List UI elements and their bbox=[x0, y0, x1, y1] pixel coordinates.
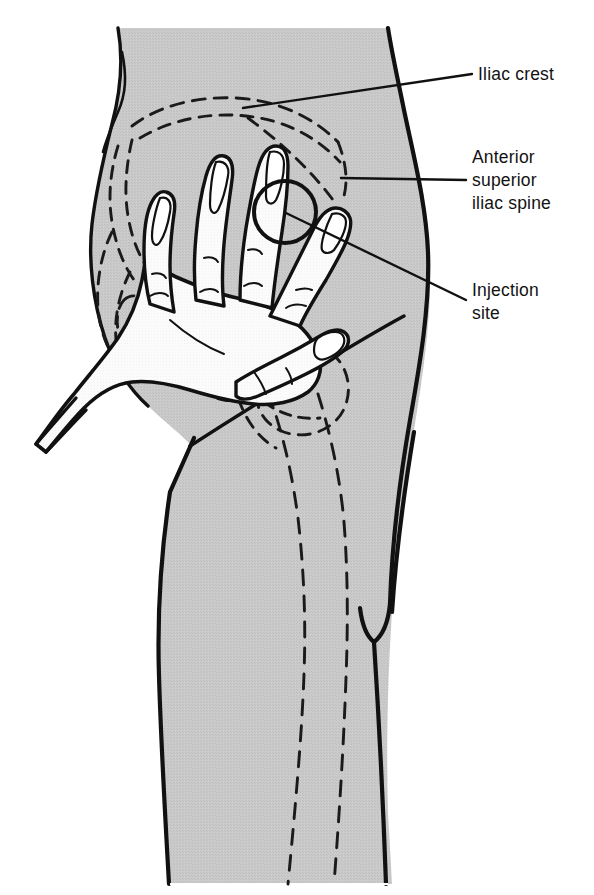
injection-site-illustration: Iliac crest Anterior superior iliac spin… bbox=[0, 0, 594, 895]
anatomy-figure: Iliac crest Anterior superior iliac spin… bbox=[0, 0, 594, 895]
label-anterior-superior-iliac-spine-line3: iliac spine bbox=[472, 193, 551, 213]
label-anterior-superior-iliac-spine-line1: Anterior bbox=[472, 147, 535, 167]
label-anterior-superior-iliac-spine-line2: superior bbox=[472, 170, 537, 190]
label-iliac-crest: Iliac crest bbox=[478, 64, 554, 84]
label-injection-site-line1: Injection bbox=[472, 280, 539, 300]
label-group: Iliac crest Anterior superior iliac spin… bbox=[472, 64, 554, 323]
body-silhouette bbox=[91, 28, 431, 884]
label-injection-site-line2: site bbox=[472, 303, 500, 323]
